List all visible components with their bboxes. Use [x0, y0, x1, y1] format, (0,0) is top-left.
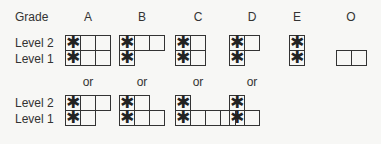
grade-d-label: D: [248, 10, 257, 24]
star-cell: ✱: [119, 110, 135, 126]
grade-e-label: E: [293, 10, 301, 24]
star-cell: ✱: [175, 50, 191, 66]
empty-cell: [336, 50, 352, 66]
empty-cell: [134, 35, 150, 51]
empty-cell: [80, 110, 96, 126]
empty-cell: [80, 35, 96, 51]
empty-cell: [190, 110, 206, 126]
empty-cell: [95, 50, 111, 66]
row-label-level1-alt: Level 1: [15, 112, 54, 126]
grade-o-label: O: [346, 10, 355, 24]
empty-cell: [205, 110, 221, 126]
empty-cell: [134, 95, 150, 111]
empty-cell: [80, 95, 96, 111]
empty-cell: [95, 95, 111, 111]
empty-cell: [134, 110, 150, 126]
empty-cell: [351, 50, 367, 66]
star-cell: ✱: [65, 110, 81, 126]
grade-a-label: A: [84, 10, 92, 24]
empty-cell: [190, 50, 206, 66]
star-cell: ✱: [229, 50, 245, 66]
grade-header-label: Grade: [15, 10, 48, 24]
or-label-a: or: [83, 75, 94, 89]
empty-cell: [95, 35, 111, 51]
or-label-b: or: [137, 75, 148, 89]
star-cell: ✱: [289, 50, 305, 66]
grade-b-label: B: [138, 10, 146, 24]
or-label-d: or: [247, 75, 258, 89]
grade-c-label: C: [194, 10, 203, 24]
empty-cell: [190, 35, 206, 51]
or-label-c: or: [193, 75, 204, 89]
star-cell: ✱: [65, 50, 81, 66]
empty-cell: [149, 35, 165, 51]
row-label-level1-primary: Level 1: [15, 52, 54, 66]
empty-cell: [244, 35, 260, 51]
empty-cell: [244, 110, 260, 126]
row-label-level2-alt: Level 2: [15, 96, 54, 110]
star-cell: ✱: [175, 110, 191, 126]
empty-cell: [149, 110, 165, 126]
row-label-level2-primary: Level 2: [15, 36, 54, 50]
empty-cell: [80, 50, 96, 66]
star-cell: ✱: [119, 50, 135, 66]
star-cell: ✱: [229, 110, 245, 126]
